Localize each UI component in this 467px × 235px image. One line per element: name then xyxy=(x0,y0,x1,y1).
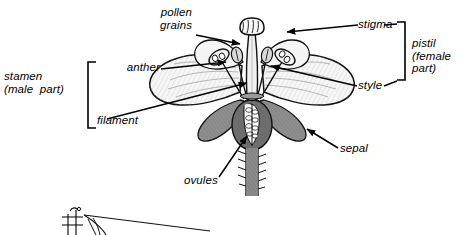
secondary-figure-cropped xyxy=(62,207,210,235)
ovary-group xyxy=(232,100,272,152)
label-anther: anther xyxy=(94,61,160,74)
leader-sepal xyxy=(307,129,338,148)
leader-stigma xyxy=(287,25,358,32)
label-pistil-group: pistil (female part) xyxy=(412,37,467,75)
label-sepal: sepal xyxy=(340,142,388,155)
style-group xyxy=(247,32,258,101)
leader-ovules xyxy=(219,136,247,177)
flower-drawing xyxy=(150,18,355,196)
flower-anatomy-illustration xyxy=(0,0,467,235)
stigma-group xyxy=(240,18,264,35)
label-stigma: stigma xyxy=(358,18,408,31)
diagram-canvas: pollen grains anther filament stamen (ma… xyxy=(0,0,467,235)
label-filament: filament xyxy=(97,114,177,127)
label-style: style xyxy=(358,79,402,92)
pistil-bracket xyxy=(397,22,405,80)
label-pollen-grains: pollen grains xyxy=(100,6,192,31)
label-ovules: ovules xyxy=(184,174,238,187)
stem-group xyxy=(238,148,266,196)
label-stamen-group: stamen (male part) xyxy=(4,70,88,95)
